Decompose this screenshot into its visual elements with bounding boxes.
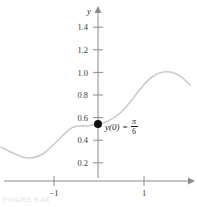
y-tick-label-1.4: 1.4 bbox=[77, 22, 88, 32]
y-tick-label-0.6: 0.6 bbox=[77, 113, 88, 123]
figure-container: 1.4 1.2 1.0 0.8 0.6 0.4 0.2 −1 1 y y(0) … bbox=[0, 0, 197, 207]
y-tick-label-0.8: 0.8 bbox=[77, 90, 88, 100]
initial-condition-point bbox=[94, 120, 102, 128]
y-axis-label: y bbox=[86, 6, 91, 16]
plot-canvas: 1.4 1.2 1.0 0.8 0.6 0.4 0.2 −1 1 y bbox=[0, 0, 197, 207]
x-tick-label-neg1: −1 bbox=[49, 188, 58, 198]
y-axis-arrow-icon bbox=[95, 6, 102, 13]
annotation-lhs: y(0) bbox=[105, 123, 120, 132]
y-tick-label-1.2: 1.2 bbox=[77, 45, 88, 55]
fraction-numerator: π bbox=[131, 118, 137, 127]
annotation-equals: = bbox=[123, 123, 128, 132]
y-tick-label-1.0: 1.0 bbox=[77, 68, 88, 78]
initial-condition-annotation: y(0) = π 6 bbox=[105, 118, 138, 136]
x-axis-arrow-icon bbox=[188, 178, 195, 185]
fraction-denominator: 6 bbox=[131, 127, 137, 136]
solution-curve bbox=[1, 72, 190, 158]
figure-caption: FIGURE 9.48 bbox=[3, 196, 49, 203]
x-tick-label-1: 1 bbox=[142, 188, 146, 198]
annotation-fraction: π 6 bbox=[131, 118, 138, 136]
y-tick-label-0.2: 0.2 bbox=[77, 158, 88, 168]
y-tick-label-0.4: 0.4 bbox=[77, 135, 88, 145]
